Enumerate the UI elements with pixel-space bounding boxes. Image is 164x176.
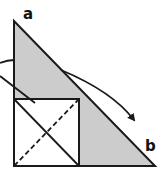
label-b: b — [145, 139, 156, 154]
fold-diagram — [0, 0, 164, 176]
label-a: a — [23, 7, 33, 22]
